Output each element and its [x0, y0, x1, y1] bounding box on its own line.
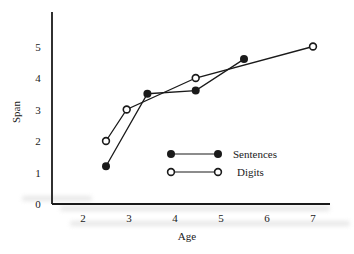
- legend: Sentences Digits: [167, 148, 277, 178]
- x-tick-label: 2: [80, 212, 86, 224]
- y-tick-label: 0: [35, 198, 41, 210]
- open-circle-marker-icon: [310, 43, 317, 50]
- legend-item-sentences: Sentences: [167, 148, 277, 160]
- open-circle-marker-icon: [168, 169, 175, 176]
- x-tick-label: 7: [310, 212, 316, 224]
- series-group: [102, 43, 316, 170]
- series-digits: [103, 43, 317, 144]
- y-tick-labels: 012345: [35, 41, 41, 211]
- y-tick-label: 4: [35, 72, 41, 84]
- legend-item-digits: Digits: [168, 166, 264, 178]
- y-tick-label: 3: [35, 104, 41, 116]
- filled-circle-marker-icon: [167, 150, 175, 158]
- open-circle-marker-icon: [103, 138, 110, 145]
- filled-circle-marker-icon: [192, 87, 200, 95]
- y-axis-title: Span: [10, 101, 22, 124]
- x-tick-label: 5: [218, 212, 224, 224]
- filled-circle-marker-icon: [240, 55, 248, 63]
- open-circle-marker-icon: [123, 106, 130, 113]
- line-chart: 012345 234567 Span Age Sentences Digits: [0, 0, 354, 254]
- filled-circle-marker-icon: [102, 162, 110, 170]
- y-tick-label: 5: [35, 41, 41, 53]
- series-line: [106, 47, 313, 142]
- filled-circle-marker-icon: [214, 150, 222, 158]
- legend-label-digits: Digits: [237, 166, 264, 178]
- open-circle-marker-icon: [192, 75, 199, 82]
- x-tick-labels: 234567: [80, 212, 316, 224]
- axes: [52, 12, 330, 204]
- x-axis-title: Age: [178, 230, 196, 242]
- x-tick-label: 6: [264, 212, 270, 224]
- filled-circle-marker-icon: [143, 90, 151, 98]
- legend-label-sentences: Sentences: [233, 148, 277, 160]
- y-tick-label: 1: [35, 167, 41, 179]
- open-circle-marker-icon: [215, 169, 222, 176]
- x-tick-label: 3: [126, 212, 132, 224]
- y-tick-label: 2: [35, 135, 41, 147]
- x-tick-label: 4: [172, 212, 178, 224]
